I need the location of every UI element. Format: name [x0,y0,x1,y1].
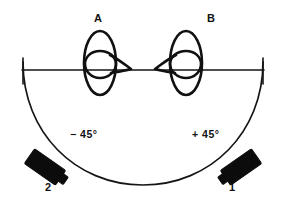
site-label-b: B [207,13,215,24]
lobe-outer-ellipse-a [84,31,116,95]
angle-label-right: + 45° [192,129,219,140]
beam-lobe-group-b [155,31,202,95]
lobe-outer-ellipse-b [170,31,202,95]
site-label-a: A [94,13,102,24]
angle-label-left: − 45° [70,129,97,140]
probe-label-right: 1 [229,182,235,193]
probe-label-left: 2 [45,182,51,193]
figure-canvas: A B − 45° + 45° 2 1 [0,0,286,202]
schematic-drawing [0,0,286,202]
beam-lobe-group-a [84,31,131,95]
